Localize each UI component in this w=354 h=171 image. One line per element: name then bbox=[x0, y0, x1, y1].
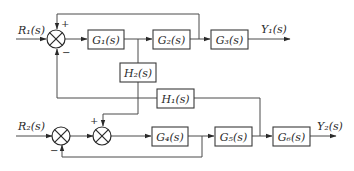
sign-plus: + bbox=[61, 18, 69, 29]
svg-text:G₅(s): G₅(s) bbox=[220, 131, 247, 144]
block-diagram: + − − + G₁(s) G₂(s) G₃(s) H₂(s) H₁(s) G₄… bbox=[0, 0, 354, 171]
output-label-y2: Y₂(s) bbox=[317, 120, 343, 133]
output-label-y1: Y₁(s) bbox=[261, 23, 287, 36]
input-label-r1: R₁(s) bbox=[17, 24, 45, 37]
sign-minus: − bbox=[50, 145, 58, 156]
svg-text:H₂(s): H₂(s) bbox=[123, 67, 152, 80]
block-g1: G₁(s) bbox=[88, 30, 124, 49]
summing-junction-2 bbox=[52, 127, 70, 145]
summing-junction-3 bbox=[93, 127, 111, 145]
svg-text:G₄(s): G₄(s) bbox=[156, 131, 183, 144]
svg-text:H₁(s): H₁(s) bbox=[160, 93, 189, 106]
block-h1: H₁(s) bbox=[157, 89, 194, 108]
block-g5: G₅(s) bbox=[215, 127, 252, 146]
svg-text:G₃(s): G₃(s) bbox=[216, 34, 243, 47]
input-label-r2: R₂(s) bbox=[17, 120, 45, 133]
svg-text:G₂(s): G₂(s) bbox=[158, 34, 185, 47]
block-g2: G₂(s) bbox=[153, 30, 190, 49]
block-g6: G₆(s) bbox=[273, 127, 310, 146]
svg-text:G₁(s): G₁(s) bbox=[92, 34, 119, 47]
block-h2: H₂(s) bbox=[120, 63, 156, 82]
sign-minus: − bbox=[62, 47, 70, 58]
block-g3: G₃(s) bbox=[211, 30, 248, 49]
sign-plus: + bbox=[90, 115, 98, 126]
svg-text:G₆(s): G₆(s) bbox=[278, 131, 305, 144]
block-g4: G₄(s) bbox=[152, 127, 188, 146]
summing-junction-1 bbox=[47, 30, 65, 48]
